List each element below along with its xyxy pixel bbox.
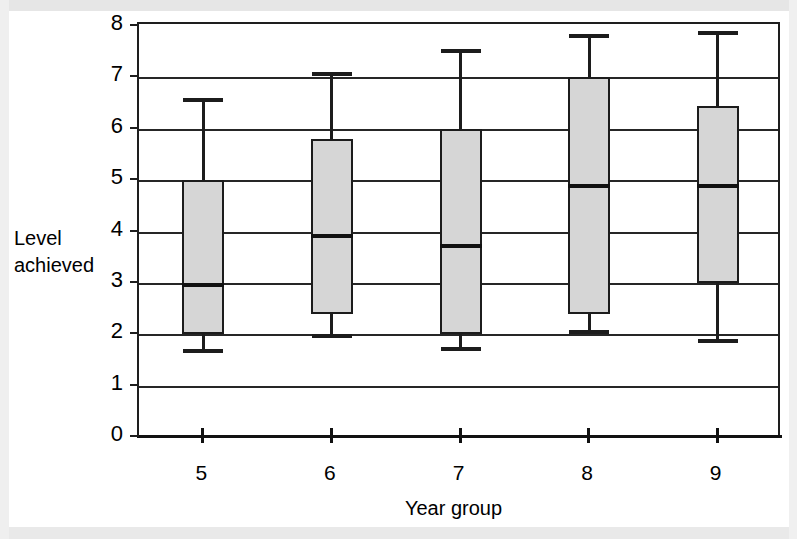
whisker-cap-lower: [569, 330, 609, 334]
whisker-upper: [716, 31, 719, 105]
y-tick-label-2: 2: [3, 320, 123, 342]
y-tick-2: [130, 332, 139, 334]
whisker-cap-lower: [183, 349, 223, 353]
whisker-lower: [716, 283, 719, 340]
whisker-cap-upper: [312, 72, 352, 76]
y-tick-4: [130, 230, 139, 232]
whisker-cap-lower: [441, 347, 481, 351]
y-tick-label-1: 1: [3, 372, 123, 394]
y-axis-title: Levelachieved: [14, 225, 94, 279]
x-axis-title-text: Year group: [295, 497, 502, 519]
y-axis-title-line: achieved: [14, 252, 94, 279]
box-iqr: [182, 180, 224, 334]
whisker-cap-lower: [698, 339, 738, 343]
box-iqr: [311, 139, 353, 314]
median-line: [182, 283, 224, 287]
chart-page: 012345678 56789 Levelachieved Year group: [0, 0, 797, 539]
median-line: [568, 184, 610, 188]
y-tick-0: [130, 435, 139, 437]
scan-artifact-bottom: [0, 527, 797, 539]
whisker-lower: [588, 314, 591, 330]
x-tick-label-6: 6: [290, 462, 370, 483]
whisker-lower: [330, 314, 333, 335]
scan-artifact-right: [789, 0, 797, 539]
y-tick-label-5: 5: [3, 166, 123, 188]
y-tick-1: [130, 384, 139, 386]
whisker-upper: [202, 98, 205, 180]
x-tick-7: [459, 428, 462, 443]
whisker-upper: [459, 49, 462, 129]
y-tick-6: [130, 127, 139, 129]
median-line: [697, 184, 739, 188]
whisker-cap-upper: [698, 31, 738, 35]
median-line: [440, 244, 482, 248]
x-tick-label-9: 9: [676, 462, 756, 483]
whisker-cap-upper: [183, 98, 223, 102]
whisker-cap-upper: [569, 34, 609, 38]
y-tick-label-0: 0: [3, 423, 123, 445]
median-line: [311, 234, 353, 238]
x-axis-title: Year group: [0, 497, 797, 520]
y-tick-5: [130, 178, 139, 180]
y-tick-label-7: 7: [3, 63, 123, 85]
y-tick-label-6: 6: [3, 115, 123, 137]
x-tick-label-8: 8: [547, 462, 627, 483]
y-tick-8: [130, 24, 139, 26]
whisker-lower: [459, 334, 462, 347]
gridline-1: [139, 386, 778, 388]
x-tick-5: [201, 428, 204, 443]
y-tick-7: [130, 75, 139, 77]
box-iqr: [697, 106, 739, 283]
plot-area: [137, 22, 780, 436]
x-tick-8: [587, 428, 590, 443]
whisker-lower: [202, 334, 205, 348]
box-iqr: [568, 77, 610, 313]
x-tick-9: [716, 428, 719, 443]
whisker-cap-lower: [312, 334, 352, 338]
whisker-upper: [330, 72, 333, 139]
y-tick-label-8: 8: [3, 12, 123, 34]
whisker-upper: [588, 34, 591, 78]
x-tick-label-5: 5: [161, 462, 241, 483]
whisker-cap-upper: [441, 49, 481, 53]
x-tick-6: [330, 428, 333, 443]
y-tick-3: [130, 281, 139, 283]
box-iqr: [440, 129, 482, 335]
y-axis-title-line: Level: [14, 225, 94, 252]
x-tick-label-7: 7: [419, 462, 499, 483]
